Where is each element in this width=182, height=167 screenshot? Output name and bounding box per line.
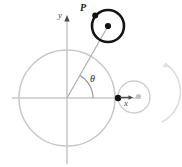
rolling-circle-center-marker (105, 23, 111, 29)
y-axis-arrowhead (64, 15, 69, 22)
point-p-label: P (80, 3, 86, 13)
theta-angle-label: θ (90, 74, 95, 84)
point-p-marker (92, 13, 98, 19)
gray-center-marker (136, 94, 141, 99)
y-axis-label: y (58, 11, 62, 20)
figure-canvas: P y x θ (0, 0, 182, 167)
rotation-direction-arrow (162, 62, 180, 122)
x-axis-label: x (124, 99, 128, 108)
radial-line (67, 26, 108, 98)
